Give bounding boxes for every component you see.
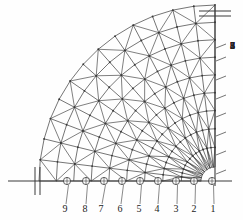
right-tick <box>216 57 226 61</box>
mesh-node <box>189 158 191 160</box>
mesh-node <box>189 77 191 79</box>
mesh-node <box>144 78 146 80</box>
mesh-diagonal <box>204 75 215 93</box>
mesh-node <box>82 63 84 65</box>
mesh-node <box>132 24 134 26</box>
mesh-diagonal <box>165 87 166 108</box>
mesh-node <box>167 127 169 129</box>
mesh-diagonal <box>40 143 61 160</box>
bottom-node-markers <box>63 177 215 204</box>
mesh-node <box>134 64 136 66</box>
mesh-diagonal <box>176 146 193 155</box>
mesh-diagonal <box>83 123 106 130</box>
mesh-diagonal <box>184 98 198 112</box>
mesh-node <box>128 159 130 161</box>
mesh-diagonal <box>157 141 169 157</box>
mesh-node <box>181 118 183 120</box>
mesh-node <box>121 98 123 100</box>
mesh-node <box>144 101 146 103</box>
mesh-node <box>196 131 198 133</box>
mesh-node <box>60 142 62 144</box>
mesh-node <box>165 162 167 164</box>
mesh-node <box>74 163 76 165</box>
mesh-node <box>184 60 186 62</box>
mesh-node <box>127 120 129 122</box>
mesh-node <box>89 114 91 116</box>
mesh-node <box>206 110 208 112</box>
mesh-diagonal <box>99 101 106 124</box>
mesh-node <box>109 167 111 169</box>
mesh-diagonal <box>110 160 130 168</box>
mesh-spoke <box>98 49 205 170</box>
mesh-diagonal <box>95 151 110 168</box>
mesh-node <box>49 118 51 120</box>
bottom-node-label: 8 <box>83 203 88 214</box>
mesh-diagonal <box>70 81 74 107</box>
mesh-node <box>181 176 183 178</box>
mesh-spoke <box>50 119 201 176</box>
right-tick <box>216 113 226 117</box>
mesh-spoke <box>59 99 202 174</box>
node-leader <box>86 185 88 204</box>
mesh-node <box>173 102 175 104</box>
mesh-diagonal <box>185 138 199 151</box>
mesh-diagonal <box>96 76 99 101</box>
mesh-node <box>94 150 96 152</box>
mesh-node <box>58 98 60 100</box>
right-tick <box>216 76 226 80</box>
mesh-node <box>91 165 93 167</box>
mesh-node <box>193 94 195 96</box>
mesh-node <box>108 86 110 88</box>
mesh-diagonal <box>50 107 74 118</box>
mesh-diagonal <box>168 128 185 138</box>
mesh-node <box>210 147 212 149</box>
bottom-node-label: 2 <box>192 203 197 214</box>
mesh-node <box>132 87 134 89</box>
mesh-arc <box>163 129 215 181</box>
mesh-node <box>69 80 71 82</box>
mesh-diagonal <box>196 5 215 23</box>
mesh-node <box>168 156 170 158</box>
mesh-diagonal <box>128 121 149 123</box>
mesh-node <box>214 4 216 6</box>
mesh-diagonal <box>200 40 215 58</box>
bottom-node-label: 4 <box>155 203 160 214</box>
mesh-node <box>164 48 166 50</box>
mesh-node <box>39 159 41 161</box>
mesh-diagonal <box>40 160 56 181</box>
mesh-node <box>172 9 174 11</box>
mesh-node <box>202 149 204 151</box>
mesh-node <box>175 145 177 147</box>
right-tick <box>216 132 226 136</box>
right-tick <box>216 95 226 99</box>
node-leader <box>158 185 160 204</box>
mesh-node <box>148 155 150 157</box>
mesh-diagonal <box>83 131 95 151</box>
mesh-diagonal <box>176 146 187 162</box>
node-leader <box>195 185 196 204</box>
node-leader <box>177 185 178 204</box>
mesh-diagonal <box>198 93 204 112</box>
mesh-node <box>126 169 128 171</box>
mesh-node <box>77 146 79 148</box>
mesh-node <box>183 168 185 170</box>
mesh-diagonal <box>149 156 169 157</box>
mesh-node <box>148 121 150 123</box>
mesh-node <box>43 138 45 140</box>
mesh-node <box>161 133 163 135</box>
mesh-node <box>148 55 150 57</box>
mesh-diagonal <box>159 10 173 33</box>
mesh-diagonal <box>145 56 150 79</box>
mesh-diagonal <box>105 121 127 124</box>
mesh-diagonal <box>133 25 159 32</box>
mesh-node <box>120 131 122 133</box>
mesh-node <box>155 114 157 116</box>
mesh-node <box>158 32 160 34</box>
mesh-node <box>82 130 84 132</box>
mesh-spoke <box>83 64 204 171</box>
mesh-diagonal <box>98 49 125 50</box>
node-leader <box>214 185 215 204</box>
bottom-node-label: 6 <box>118 203 123 214</box>
mesh-node <box>202 129 204 131</box>
right-tick <box>216 170 226 174</box>
